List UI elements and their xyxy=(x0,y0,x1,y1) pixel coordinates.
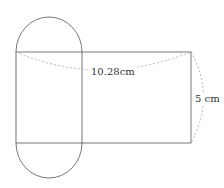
bottom-cap-arc xyxy=(16,143,82,178)
cylinder-net-diagram xyxy=(0,0,224,188)
top-cap-arc xyxy=(16,17,82,52)
width-label: 10.28cm xyxy=(90,67,136,77)
height-label: 5 cm xyxy=(195,94,220,104)
